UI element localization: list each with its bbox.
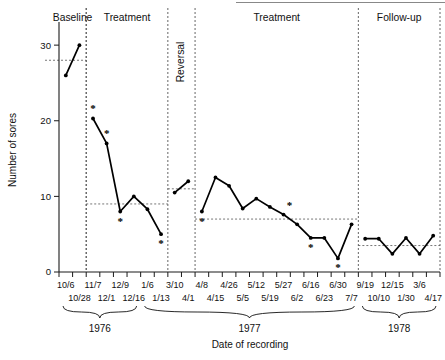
- data-point: [146, 207, 150, 211]
- phase-label: Reversal: [175, 42, 186, 83]
- data-point: [159, 232, 163, 236]
- x-tick-label: 1/13: [152, 293, 170, 303]
- asterisk-marker: *: [104, 127, 110, 139]
- data-point: [418, 252, 422, 256]
- data-point: [64, 73, 68, 77]
- x-tick-label: 12/1: [98, 293, 116, 303]
- data-point: [91, 117, 95, 121]
- y-tick-label: 20: [40, 115, 51, 126]
- x-tick-label: 10/10: [368, 293, 391, 303]
- x-tick-label: 4/1: [182, 293, 195, 303]
- phase-label: Treatment: [104, 12, 151, 23]
- asterisk-marker: *: [335, 261, 341, 273]
- x-tick-label: 12/15: [381, 280, 404, 290]
- phase-label: Treatment: [253, 12, 300, 23]
- x-tick-label: 6/16: [302, 280, 320, 290]
- year-label: 1976: [89, 323, 112, 334]
- phase-label: Follow-up: [377, 12, 422, 23]
- x-tick-label: 10/28: [68, 293, 91, 303]
- asterisk-marker: *: [287, 199, 293, 211]
- x-tick-label: 5/12: [248, 280, 266, 290]
- asterisk-marker: *: [90, 102, 96, 114]
- data-point: [227, 184, 231, 188]
- y-axis-title: Number of sores: [7, 113, 18, 187]
- x-tick-label: 3/10: [166, 280, 184, 290]
- x-tick-label: 4/26: [220, 280, 238, 290]
- x-tick-label: 5/19: [261, 293, 279, 303]
- asterisk-marker: *: [308, 241, 314, 253]
- data-point: [350, 222, 354, 226]
- data-point: [282, 213, 286, 217]
- y-tick-label: 10: [40, 191, 51, 202]
- data-point: [214, 176, 218, 180]
- data-point: [186, 179, 190, 183]
- x-tick-label: 5/27: [275, 280, 293, 290]
- data-point: [118, 210, 122, 214]
- data-point: [295, 222, 299, 226]
- x-tick-label: 6/23: [316, 293, 334, 303]
- y-tick-label: 0: [46, 266, 51, 277]
- data-point: [105, 142, 109, 146]
- x-tick-label: 12/16: [123, 293, 146, 303]
- data-point: [431, 234, 435, 238]
- data-point: [363, 237, 367, 241]
- data-point: [200, 210, 204, 214]
- x-tick-label: 6/30: [329, 280, 347, 290]
- data-point: [254, 197, 258, 201]
- asterisk-marker: *: [199, 215, 205, 227]
- data-point: [322, 236, 326, 240]
- data-point: [241, 207, 245, 211]
- data-point: [268, 205, 272, 209]
- phase-label: Baseline: [53, 12, 93, 23]
- x-tick-label: 10/6: [57, 280, 75, 290]
- x-tick-label: 9/19: [356, 280, 374, 290]
- x-tick-label: 4/17: [424, 293, 442, 303]
- data-point: [404, 236, 408, 240]
- data-point: [390, 252, 394, 256]
- x-tick-label: 1/30: [397, 293, 415, 303]
- x-tick-label: 5/5: [236, 293, 249, 303]
- x-tick-label: 1/6: [141, 280, 154, 290]
- y-tick-label: 30: [40, 40, 51, 51]
- year-label: 1978: [388, 323, 411, 334]
- year-label: 1977: [238, 323, 261, 334]
- x-tick-label: 7/7: [345, 293, 358, 303]
- x-tick-label: 4/8: [196, 280, 209, 290]
- x-axis-title: Date of recording: [212, 339, 289, 350]
- data-point: [173, 191, 177, 195]
- asterisk-marker: *: [158, 237, 164, 249]
- data-point: [336, 256, 340, 260]
- data-point: [132, 194, 136, 198]
- asterisk-marker: *: [117, 215, 123, 227]
- x-tick-label: 4/15: [207, 293, 225, 303]
- x-tick-label: 6/2: [291, 293, 304, 303]
- x-tick-label: 11/7: [85, 280, 102, 290]
- data-point: [377, 237, 381, 241]
- sores-over-time-line-chart: 0102030 ******** 10/610/2811/712/112/912…: [0, 0, 445, 360]
- data-point: [309, 236, 313, 240]
- chart-background: [0, 0, 445, 360]
- x-tick-label: 3/6: [413, 280, 426, 290]
- data-point: [78, 43, 82, 47]
- x-tick-label: 12/9: [111, 280, 129, 290]
- chart-figure: 0102030 ******** 10/610/2811/712/112/912…: [0, 0, 445, 360]
